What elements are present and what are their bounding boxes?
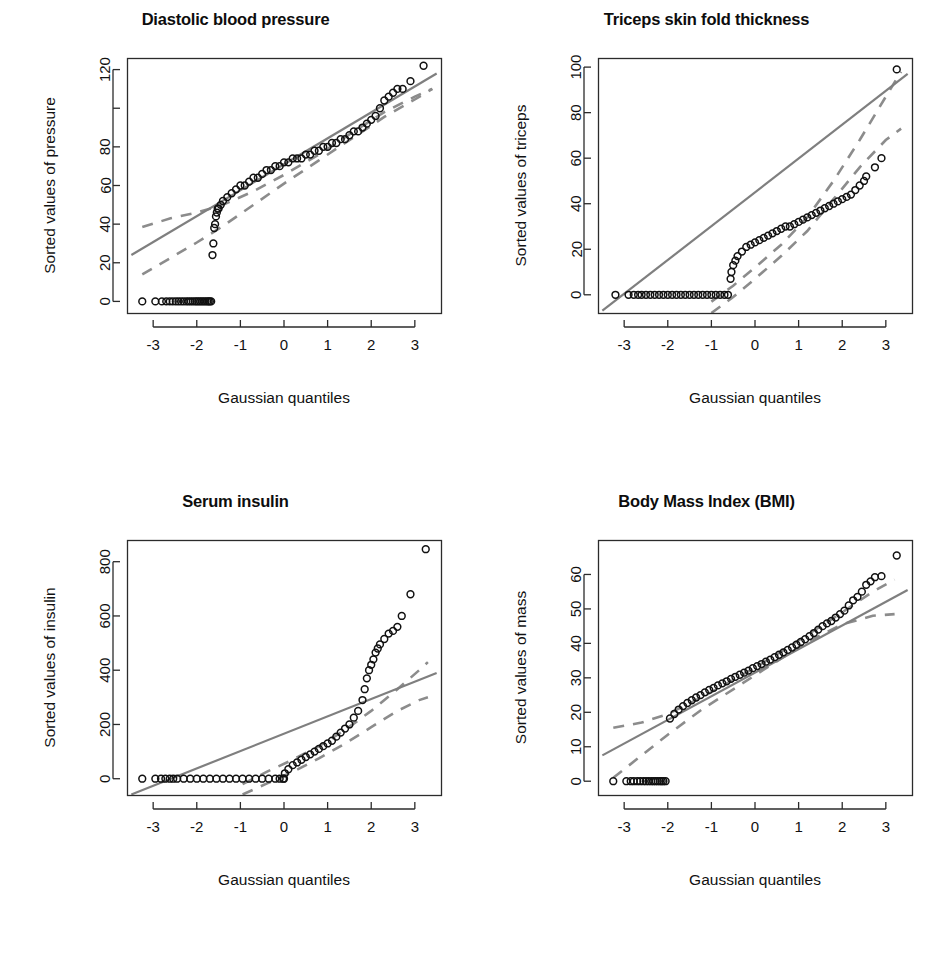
data-point [422, 546, 429, 553]
data-point [612, 291, 619, 298]
y-axis-tick-label: 100 [568, 55, 585, 80]
y-axis-tick-label: 400 [97, 658, 114, 683]
data-point [139, 775, 146, 782]
data-point [893, 66, 900, 73]
x-axis-tick-label: -1 [234, 818, 247, 835]
y-axis-tick-label: 30 [568, 669, 585, 686]
data-points [610, 552, 900, 785]
y-axis-title: Sorted values of mass [512, 591, 529, 745]
data-point [315, 147, 322, 154]
x-axis-tick-label: 1 [794, 336, 802, 353]
data-point [139, 298, 146, 305]
data-point [363, 675, 370, 682]
data-point [342, 725, 349, 732]
y-axis-tick-label: 10 [568, 738, 585, 755]
data-points [139, 546, 429, 782]
y-axis-tick-label: 40 [568, 195, 585, 212]
x-axis-tick-label: -2 [661, 336, 674, 353]
data-point [220, 775, 227, 782]
x-axis-tick-label: -3 [617, 336, 630, 353]
plot-frame [128, 59, 442, 314]
x-axis-tick-label: 2 [838, 818, 846, 835]
y-axis-tick-label: 0 [97, 297, 114, 305]
data-point [213, 775, 220, 782]
plot-canvas: -3-2-101230102030405060Gaussian quantile… [471, 482, 942, 964]
plot-frame [599, 59, 913, 314]
y-axis-tick-label: 60 [568, 150, 585, 167]
x-axis-title: Gaussian quantiles [689, 389, 821, 406]
x-axis-tick-label: 3 [411, 818, 419, 835]
y-axis-tick-label: 600 [97, 603, 114, 628]
x-axis-tick-label: 1 [323, 336, 331, 353]
reference-line [602, 590, 907, 755]
x-axis-title: Gaussian quantiles [218, 389, 350, 406]
x-axis-tick-label: 0 [280, 336, 288, 353]
x-axis-tick-label: -3 [617, 818, 630, 835]
x-axis-title: Gaussian quantiles [689, 871, 821, 888]
y-axis-tick-label: 0 [568, 291, 585, 299]
data-points [612, 66, 900, 298]
x-axis-tick-label: -3 [146, 336, 159, 353]
x-axis-tick-label: -1 [234, 336, 247, 353]
y-axis: 0200400600800 [97, 549, 121, 783]
y-axis-tick-label: 0 [568, 777, 585, 785]
y-axis-tick-label: 120 [97, 57, 114, 82]
x-axis-tick-label: -3 [146, 818, 159, 835]
confidence-band-lower [142, 89, 432, 275]
data-point [233, 775, 240, 782]
data-point [381, 97, 388, 104]
data-point [298, 155, 305, 162]
plot-content [602, 66, 907, 313]
y-axis-tick-label: 50 [568, 601, 585, 618]
x-axis-tick-label: 2 [838, 336, 846, 353]
x-axis-tick-label: 2 [367, 818, 375, 835]
reference-line [131, 73, 436, 255]
x-axis: -3-2-10123 [617, 320, 890, 353]
data-point [361, 686, 368, 693]
x-axis-tick-label: 0 [751, 336, 759, 353]
confidence-band-upper [243, 662, 428, 784]
data-point [355, 708, 362, 715]
data-point [226, 775, 233, 782]
data-point [407, 78, 414, 85]
data-point [200, 775, 207, 782]
data-point [878, 155, 885, 162]
plot-frame [128, 541, 442, 796]
x-axis-tick-label: 1 [794, 818, 802, 835]
y-axis-tick-label: 20 [97, 254, 114, 271]
reference-line [602, 74, 907, 311]
data-point [209, 252, 216, 259]
data-point [394, 623, 401, 630]
x-axis-tick-label: 3 [882, 818, 890, 835]
y-axis: 020406080120 [97, 57, 121, 306]
confidence-band-lower [613, 614, 894, 778]
y-axis-tick-label: 80 [97, 139, 114, 156]
x-axis-tick-label: -1 [705, 818, 718, 835]
x-axis: -3-2-10123 [146, 802, 419, 835]
data-point [210, 240, 217, 247]
data-point [610, 778, 617, 785]
y-axis-title: Sorted values of pressure [41, 97, 58, 274]
plot-content [131, 546, 436, 795]
plot-content [131, 62, 436, 304]
qq-plot-figure: Diastolic blood pressure -3-2-1012302040… [0, 0, 942, 964]
y-axis-title: Sorted values of insulin [41, 587, 58, 747]
x-axis-tick-label: 1 [323, 818, 331, 835]
y-axis-tick-label: 0 [97, 775, 114, 783]
y-axis: 0102030405060 [568, 566, 592, 785]
y-axis-tick-label: 80 [568, 104, 585, 121]
data-point [858, 588, 865, 595]
data-point [398, 613, 405, 620]
x-axis: -3-2-10123 [146, 320, 419, 353]
y-axis-tick-label: 20 [568, 241, 585, 258]
data-point [728, 269, 735, 276]
data-point [385, 93, 392, 100]
data-point [390, 89, 397, 96]
data-point [878, 573, 885, 580]
data-point [265, 775, 272, 782]
y-axis-tick-label: 200 [97, 712, 114, 737]
x-axis-tick-label: -1 [705, 336, 718, 353]
data-point [420, 62, 427, 69]
y-axis-tick-label: 60 [97, 177, 114, 194]
x-axis-tick-label: -2 [190, 818, 203, 835]
